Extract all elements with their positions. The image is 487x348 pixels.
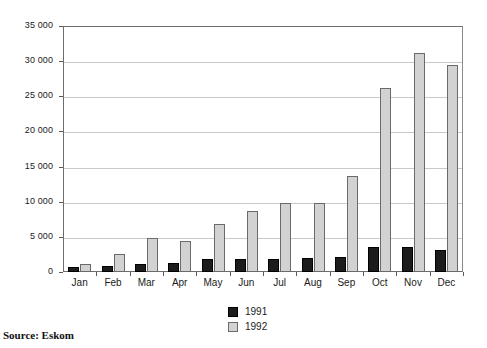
y-axis-tick-label: 25 000 <box>25 91 53 100</box>
x-axis-tick <box>130 272 131 276</box>
y-axis-tick-label: 30 000 <box>25 56 53 65</box>
legend-label-1992: 1992 <box>245 322 267 332</box>
x-axis-tick-label-sep: Sep <box>330 277 363 289</box>
x-axis-tick-label-jul: Jul <box>263 277 296 289</box>
bar-mar-1991 <box>135 264 146 272</box>
bar-sep-1992 <box>347 176 358 272</box>
y-axis-tick <box>59 26 63 27</box>
bar-jul-1992 <box>280 203 291 272</box>
y-axis-tick-label: 10 000 <box>25 197 53 206</box>
x-axis-tick-label-dec: Dec <box>430 277 463 289</box>
x-axis-tick-label-oct: Oct <box>363 277 396 289</box>
y-axis-tick-label: 35 000 <box>25 21 53 30</box>
bar-jan-1991 <box>68 267 79 272</box>
y-axis-tick <box>59 61 63 62</box>
y-axis-tick <box>59 167 63 168</box>
y-axis-tick <box>59 96 63 97</box>
x-axis-tick-label-jun: Jun <box>230 277 263 289</box>
bar-jun-1991 <box>235 259 246 272</box>
x-axis-tick <box>163 272 164 276</box>
chart-legend: 19911992 <box>228 305 348 335</box>
x-axis-tick-label-mar: Mar <box>130 277 163 289</box>
bar-group-mar <box>135 26 158 272</box>
bar-group-aug <box>302 26 325 272</box>
x-axis-tick <box>230 272 231 276</box>
bar-group-nov <box>402 26 425 272</box>
bar-nov-1991 <box>402 247 413 272</box>
bar-group-may <box>202 26 225 272</box>
bar-may-1992 <box>214 224 225 272</box>
bar-apr-1991 <box>168 263 179 272</box>
legend-swatch-1992 <box>228 322 238 332</box>
bar-aug-1991 <box>302 258 313 272</box>
y-axis-tick-label: 15 000 <box>25 162 53 171</box>
bar-dec-1992 <box>447 65 458 272</box>
bar-group-oct <box>368 26 391 272</box>
bar-dec-1991 <box>435 250 446 272</box>
x-axis-tick <box>430 272 431 276</box>
legend-item-1991[interactable]: 1991 <box>228 305 348 318</box>
bar-jul-1991 <box>268 259 279 272</box>
legend-item-1992[interactable]: 1992 <box>228 320 348 333</box>
x-axis-tick <box>396 272 397 276</box>
bar-group-sep <box>335 26 358 272</box>
x-axis-tick <box>96 272 97 276</box>
x-axis-tick-label-jan: Jan <box>63 277 96 289</box>
bar-group-jun <box>235 26 258 272</box>
source-note: Source: Eskom <box>3 329 74 341</box>
y-axis-tick-label: 5 000 <box>30 232 53 241</box>
bar-oct-1991 <box>368 247 379 272</box>
y-axis-label-group: 05 00010 00015 00020 00025 00030 00035 0… <box>0 0 59 348</box>
bar-jan-1992 <box>80 264 91 272</box>
bar-may-1991 <box>202 259 213 272</box>
bar-oct-1992 <box>380 88 391 272</box>
x-axis-tick <box>330 272 331 276</box>
x-axis-tick-label-may: May <box>196 277 229 289</box>
x-axis-tick-label-aug: Aug <box>296 277 329 289</box>
bar-nov-1992 <box>414 53 425 272</box>
bar-feb-1991 <box>102 266 113 272</box>
x-axis-tick-label-apr: Apr <box>163 277 196 289</box>
bar-jun-1992 <box>247 211 258 272</box>
y-axis-tick <box>59 131 63 132</box>
x-axis-tick <box>363 272 364 276</box>
x-axis-tick <box>296 272 297 276</box>
bar-group-apr <box>168 26 191 272</box>
y-axis-tick <box>59 237 63 238</box>
y-axis-tick-label: 20 000 <box>25 126 53 135</box>
x-axis-tick <box>463 272 464 276</box>
y-axis-tick <box>59 272 63 273</box>
bar-group-dec <box>435 26 458 272</box>
bar-mar-1992 <box>147 238 158 272</box>
bar-group-jan <box>68 26 91 272</box>
x-axis-tick <box>196 272 197 276</box>
legend-swatch-1991 <box>228 307 238 317</box>
bar-sep-1991 <box>335 257 346 272</box>
legend-label-1991: 1991 <box>245 307 267 317</box>
bar-group-feb <box>102 26 125 272</box>
y-axis-tick <box>59 202 63 203</box>
x-axis-tick <box>263 272 264 276</box>
y-axis-tick-label: 0 <box>48 267 53 276</box>
x-axis-label-group: JanFebMarAprMayJunJulAugSepOctNovDec <box>63 277 463 293</box>
bar-aug-1992 <box>314 203 325 272</box>
bars-layer <box>63 26 463 272</box>
bar-group-jul <box>268 26 291 272</box>
bar-apr-1992 <box>180 241 191 272</box>
x-axis-tick-label-feb: Feb <box>96 277 129 289</box>
x-axis-tick-label-nov: Nov <box>396 277 429 289</box>
bar-feb-1992 <box>114 254 125 272</box>
bar-chart-figure: 05 00010 00015 00020 00025 00030 00035 0… <box>0 0 487 348</box>
